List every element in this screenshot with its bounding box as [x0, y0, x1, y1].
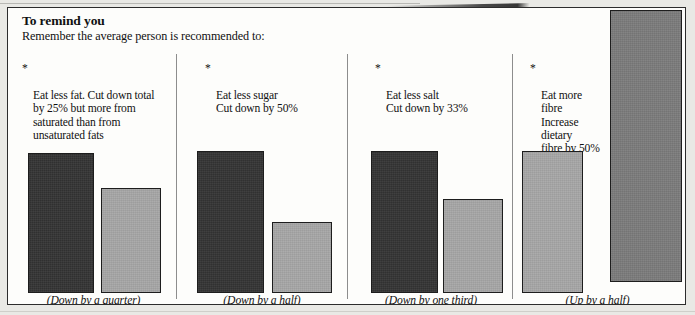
bullet-sugar: * Eat less sugar Cut down by 50% — [205, 62, 345, 129]
scan-edge-line-top — [0, 3, 420, 4]
bar-salt-recommended — [443, 199, 503, 293]
chart-group-sugar: * Eat less sugar Cut down by 50% (Down b… — [177, 54, 347, 304]
page-subtitle: Remember the average person is recommend… — [22, 29, 542, 44]
bullet-salt: * Eat less salt Cut down by 33% — [375, 62, 511, 129]
page-title: To remind you — [22, 13, 542, 28]
caption-fat: (Down by a quarter) — [16, 294, 171, 304]
bar-sugar-current — [197, 151, 264, 293]
bullet-marker-icon: * — [22, 62, 28, 75]
bullet-text: Eat less fat. Cut down total by 25% but … — [33, 89, 174, 143]
bar-fibre-recommended — [610, 10, 682, 282]
bar-fat-recommended — [101, 188, 161, 293]
bullet-marker-icon: * — [530, 62, 536, 75]
bullet-marker-icon: * — [375, 62, 381, 75]
bar-fat-current — [28, 153, 94, 293]
bullet-text: Eat less sugar Cut down by 50% — [216, 89, 345, 116]
caption-fibre: (Up by a half) — [515, 294, 680, 304]
bar-sugar-recommended — [272, 222, 332, 293]
chart-panel: To remind you Remember the average perso… — [7, 7, 686, 305]
scan-edge-line-bottom — [0, 311, 695, 312]
caption-salt: (Down by one third) — [352, 294, 510, 304]
figure-header: To remind you Remember the average perso… — [22, 13, 542, 44]
chart-group-fat: * Eat less fat. Cut down total by 25% bu… — [8, 54, 176, 304]
caption-sugar: (Down by a half) — [183, 294, 341, 304]
bullet-marker-icon: * — [205, 62, 211, 75]
chart-group-salt: * Eat less salt Cut down by 33% (Down by… — [348, 54, 512, 304]
figure-canvas: To remind you Remember the average perso… — [0, 0, 695, 315]
bullet-text: Eat less salt Cut down by 33% — [386, 89, 511, 116]
bar-fibre-current — [522, 151, 583, 293]
bullet-fat: * Eat less fat. Cut down total by 25% bu… — [22, 62, 174, 156]
bar-salt-current — [371, 151, 438, 293]
